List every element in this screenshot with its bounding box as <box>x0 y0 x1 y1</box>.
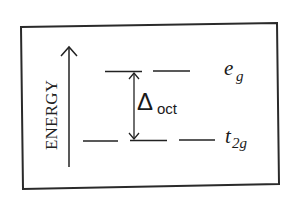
eg-label-main: e <box>224 56 233 80</box>
t2g-label: t 2g <box>225 124 248 151</box>
t2g-label-main: t <box>225 124 232 148</box>
splitting-label: Δ oct <box>137 88 178 117</box>
energy-axis-label: ENERGY <box>42 80 61 150</box>
delta-symbol: Δ <box>137 88 153 115</box>
t2g-label-sub: 2g <box>232 135 248 151</box>
eg-level <box>105 71 190 72</box>
energy-axis <box>61 47 77 167</box>
delta-subscript: oct <box>157 100 178 117</box>
crystal-field-diagram: ENERGY Δ oct e g t 2g <box>0 0 294 205</box>
eg-label-sub: g <box>236 68 244 84</box>
eg-label: e g <box>224 56 244 84</box>
t2g-level <box>83 140 215 141</box>
